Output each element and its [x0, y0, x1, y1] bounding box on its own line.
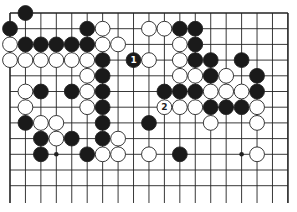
black-stone — [219, 100, 234, 115]
white-stone — [172, 37, 187, 52]
black-stone — [18, 6, 33, 21]
black-stone — [95, 53, 110, 68]
black-stone — [64, 37, 79, 52]
white-stone — [64, 53, 79, 68]
white-stone — [18, 53, 33, 68]
black-stone — [203, 100, 218, 115]
white-stone — [172, 68, 187, 83]
white-stone — [49, 53, 64, 68]
white-stone — [142, 53, 157, 68]
white-stone — [49, 131, 64, 146]
white-stone — [80, 53, 95, 68]
white-stone — [33, 53, 48, 68]
white-stone — [80, 84, 95, 99]
black-stone — [203, 68, 218, 83]
go-board: 12 — [0, 0, 297, 212]
black-stone — [49, 37, 64, 52]
white-stone — [111, 131, 126, 146]
star-point — [239, 152, 244, 157]
black-stone — [95, 131, 110, 146]
white-stone — [18, 100, 33, 115]
black-stone — [172, 21, 187, 36]
white-stone — [95, 37, 110, 52]
white-stone — [234, 84, 249, 99]
black-stone — [95, 68, 110, 83]
black-stone — [188, 21, 203, 36]
black-stone — [33, 37, 48, 52]
white-stone — [18, 84, 33, 99]
white-stone: 2 — [157, 100, 172, 115]
white-stone — [157, 21, 172, 36]
white-stone — [203, 116, 218, 131]
white-stone — [172, 100, 187, 115]
white-stone — [219, 68, 234, 83]
white-stone — [188, 68, 203, 83]
move-number-label: 2 — [161, 102, 167, 112]
black-stone — [3, 21, 18, 36]
white-stone — [250, 100, 265, 115]
white-stone — [49, 116, 64, 131]
black-stone — [188, 37, 203, 52]
move-number-label: 1 — [130, 55, 136, 65]
black-stone — [33, 84, 48, 99]
white-stone — [95, 147, 110, 162]
white-stone — [80, 100, 95, 115]
black-stone — [64, 131, 79, 146]
white-stone — [80, 68, 95, 83]
white-stone — [250, 116, 265, 131]
black-stone — [95, 100, 110, 115]
white-stone — [3, 53, 18, 68]
black-stone: 1 — [126, 53, 141, 68]
black-stone — [172, 84, 187, 99]
black-stone — [250, 68, 265, 83]
black-stone — [188, 53, 203, 68]
black-stone — [203, 53, 218, 68]
black-stone — [80, 21, 95, 36]
black-stone — [188, 84, 203, 99]
white-stone — [33, 116, 48, 131]
white-stone — [250, 147, 265, 162]
black-stone — [33, 147, 48, 162]
black-stone — [80, 147, 95, 162]
white-stone — [142, 21, 157, 36]
black-stone — [64, 84, 79, 99]
white-stone — [188, 100, 203, 115]
black-stone — [95, 84, 110, 99]
black-stone — [18, 37, 33, 52]
white-stone — [3, 37, 18, 52]
black-stone — [172, 147, 187, 162]
black-stone — [234, 100, 249, 115]
white-stone — [219, 84, 234, 99]
black-stone — [33, 131, 48, 146]
black-stone — [142, 116, 157, 131]
star-point — [54, 152, 59, 157]
black-stone — [157, 84, 172, 99]
black-stone — [234, 53, 249, 68]
black-stone — [80, 37, 95, 52]
white-stone — [111, 37, 126, 52]
black-stone — [250, 84, 265, 99]
white-stone — [172, 53, 187, 68]
white-stone — [95, 21, 110, 36]
black-stone — [95, 116, 110, 131]
white-stone — [142, 147, 157, 162]
black-stone — [18, 116, 33, 131]
white-stone — [203, 84, 218, 99]
white-stone — [111, 147, 126, 162]
